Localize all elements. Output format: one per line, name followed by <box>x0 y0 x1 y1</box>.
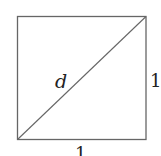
bottom-side-label: 1 <box>75 143 86 156</box>
diagonal-label: d <box>55 70 67 92</box>
right-side-label: 1 <box>150 70 161 91</box>
diagonal-line <box>18 17 147 140</box>
diagram-svg: d 1 1 <box>0 0 161 156</box>
square-diagram: d 1 1 <box>0 0 161 156</box>
